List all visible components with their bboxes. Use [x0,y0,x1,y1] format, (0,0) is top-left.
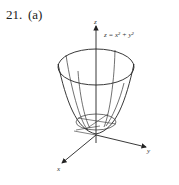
y-axis [96,135,146,147]
x-axis [62,135,96,163]
z-axis-label: z [93,18,97,26]
y-axis-label: y [146,147,151,155]
paraboloid-figure: z z = x² + y² y x [0,0,179,185]
equation-label: z = x² + y² [103,31,134,39]
x-axis-label: x [56,165,61,173]
